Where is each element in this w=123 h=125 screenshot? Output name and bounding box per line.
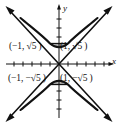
point-label-upper-left: (−1, √5 ) (9, 42, 42, 52)
point-label-upper-right: (1, √5 ) (60, 42, 87, 52)
graph-canvas (0, 0, 123, 125)
hyperbola-figure: (−1, √5 ) (1, √5 ) (−1, −√5 ) (1, −√5 ) … (0, 0, 123, 125)
point-label-lower-right: (1, −√5 ) (60, 74, 93, 84)
y-axis-label: y (63, 4, 67, 13)
y-axis-arrowhead (57, 4, 61, 10)
x-axis-label: x (112, 57, 116, 66)
point-label-lower-left: (−1, −√5 ) (8, 74, 46, 84)
